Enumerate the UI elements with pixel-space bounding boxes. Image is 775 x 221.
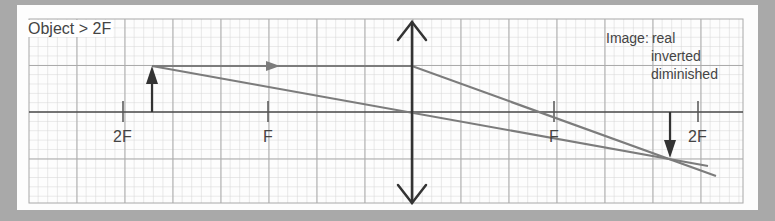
label-2f-left: 2F — [113, 128, 132, 145]
label-f-right: F — [549, 128, 559, 145]
image-properties-label: Image: — [606, 29, 648, 47]
diagram-title: Object > 2F — [28, 20, 113, 37]
label-f-left: F — [263, 128, 273, 145]
image-property-real: real — [652, 30, 675, 46]
label-2f-right: 2F — [688, 128, 707, 145]
image-property-inverted: inverted — [606, 47, 718, 65]
image-property-diminished: diminished — [606, 65, 718, 83]
image-properties: Image: real inverted diminished — [606, 29, 718, 83]
